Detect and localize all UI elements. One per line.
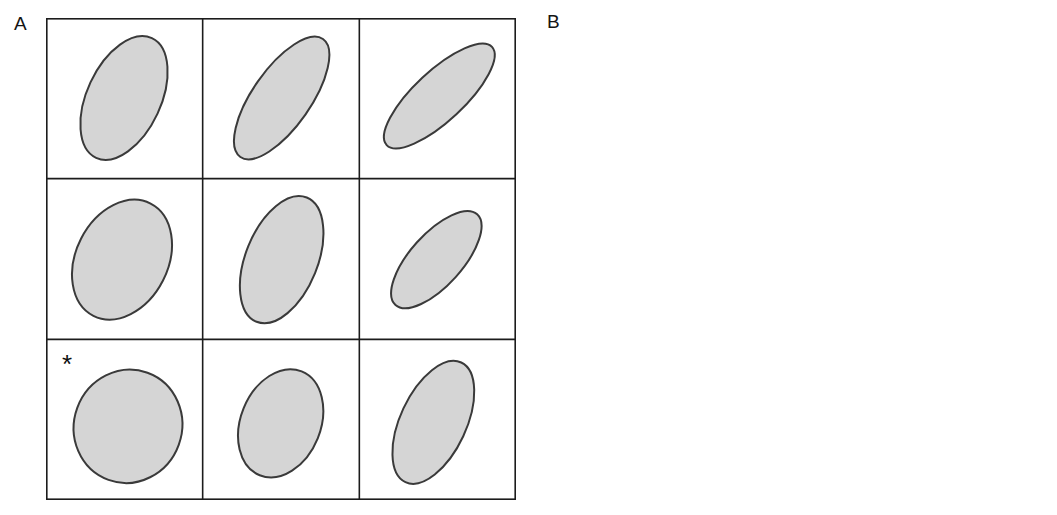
panel-b-label: B [547, 12, 560, 31]
figure-root: A * B * [0, 0, 1057, 515]
ellipse-cell [52, 183, 191, 337]
ellipse-grid-svg: * [46, 18, 516, 500]
asterisk-marker: * [62, 349, 72, 379]
tuning-ellipse [376, 197, 496, 322]
ellipse-cell [223, 356, 339, 490]
ellipse-cell [63, 23, 186, 174]
ellipse-cell [223, 184, 340, 335]
ellipse-cell [376, 197, 496, 322]
ellipse-cell [376, 349, 492, 497]
ellipse-cell [370, 29, 509, 164]
panel-a-label: A [14, 14, 27, 33]
panel-a: A * [0, 0, 530, 515]
ellipse-cell [58, 354, 198, 498]
tuning-ellipse [52, 183, 191, 337]
panel-b: B * [527, 0, 1057, 515]
tuning-ellipse [370, 29, 509, 164]
panel-a-grid: * [46, 18, 516, 500]
tuning-ellipse [223, 184, 340, 335]
tuning-ellipse [223, 356, 339, 490]
tuning-ellipse [58, 354, 198, 498]
tuning-ellipse [217, 22, 347, 173]
ellipse-cell [217, 22, 347, 173]
tuning-ellipse [63, 23, 186, 174]
tuning-ellipse [376, 349, 492, 497]
